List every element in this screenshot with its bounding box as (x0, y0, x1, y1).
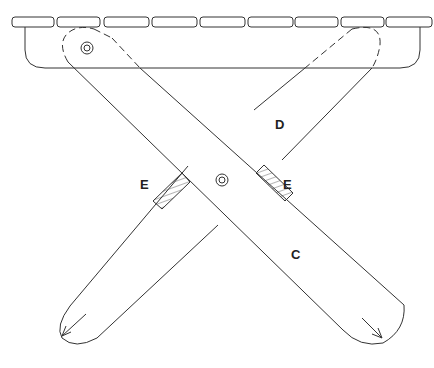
label-e-right: E (283, 177, 292, 192)
leg-c (62, 27, 404, 344)
stop-block-left (153, 173, 190, 209)
pivot-bolt-top-left (81, 42, 93, 54)
pivot-bolt-center (216, 174, 228, 186)
folding-stool-diagram: D E E C (0, 0, 434, 368)
label-c: C (291, 247, 300, 262)
label-d: D (275, 117, 284, 132)
seat-slats (12, 17, 432, 27)
label-e-left: E (140, 177, 149, 192)
